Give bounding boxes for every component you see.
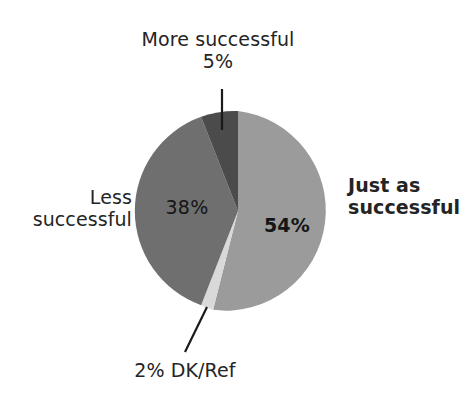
pie-label-less-successful: Less successful	[2, 186, 132, 231]
pie-value-less-successful: 38%	[152, 196, 222, 218]
pie-value-just-as-successful: 54%	[250, 214, 324, 236]
pie-label-more-successful: More successful 5%	[118, 28, 318, 73]
pie-chart: More successful 5% Just as successful Le…	[0, 0, 475, 411]
pie-label-dk-ref: 2% DK/Ref	[90, 359, 280, 381]
leader-line-dk-ref	[185, 307, 207, 352]
pie-label-just-as-successful: Just as successful	[348, 174, 474, 219]
